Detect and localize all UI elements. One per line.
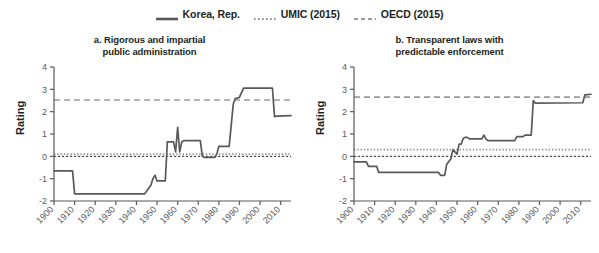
svg-text:2000: 2000 [540, 204, 561, 225]
svg-text:1960: 1960 [458, 204, 479, 225]
svg-text:1960: 1960 [158, 204, 179, 225]
svg-text:1920: 1920 [75, 204, 96, 225]
svg-text:1940: 1940 [417, 204, 438, 225]
panel-b: b. Transparent laws with predictable enf… [300, 30, 599, 253]
svg-text:1950: 1950 [437, 204, 458, 225]
legend-label-umic: UMIC (2015) [281, 8, 340, 20]
svg-text:1970: 1970 [178, 204, 199, 225]
svg-text:-2: -2 [39, 196, 47, 206]
svg-text:1930: 1930 [96, 204, 117, 225]
svg-text:4: 4 [42, 62, 47, 72]
svg-text:3: 3 [42, 85, 47, 95]
svg-text:1990: 1990 [520, 204, 541, 225]
svg-text:1: 1 [342, 129, 347, 139]
svg-text:1980: 1980 [199, 204, 220, 225]
legend-item-oecd: OECD (2015) [354, 8, 444, 20]
svg-text:3: 3 [342, 85, 347, 95]
svg-text:1910: 1910 [355, 204, 376, 225]
svg-text:1910: 1910 [55, 204, 76, 225]
panel-a-plot: -2-1012341900191019201930194019501960197… [0, 30, 299, 253]
legend-label-oecd: OECD (2015) [381, 8, 444, 20]
svg-text:2000: 2000 [240, 204, 261, 225]
svg-text:1950: 1950 [137, 204, 158, 225]
svg-text:1940: 1940 [117, 204, 138, 225]
svg-text:2: 2 [342, 107, 347, 117]
svg-text:-2: -2 [339, 196, 347, 206]
panel-b-ylabel: Rating [314, 101, 326, 135]
svg-text:1980: 1980 [499, 204, 520, 225]
svg-text:2010: 2010 [261, 204, 282, 225]
svg-text:0: 0 [342, 152, 347, 162]
svg-text:2010: 2010 [561, 204, 582, 225]
svg-text:-1: -1 [39, 174, 47, 184]
svg-text:1900: 1900 [34, 204, 55, 225]
chart-figure: Korea, Rep. UMIC (2015) OECD (2015) a. R… [0, 0, 599, 253]
legend-item-umic: UMIC (2015) [254, 8, 340, 20]
svg-text:-1: -1 [339, 174, 347, 184]
panel-b-plot: -2-1012341900191019201930194019501960197… [300, 30, 599, 253]
panel-a: a. Rigorous and impartial public adminis… [0, 30, 299, 253]
panel-a-ylabel: Rating [14, 101, 26, 135]
chart-legend: Korea, Rep. UMIC (2015) OECD (2015) [0, 4, 599, 24]
svg-text:4: 4 [342, 62, 347, 72]
svg-text:1: 1 [42, 129, 47, 139]
svg-text:1990: 1990 [220, 204, 241, 225]
svg-text:1970: 1970 [478, 204, 499, 225]
legend-label-korea: Korea, Rep. [183, 8, 240, 20]
svg-text:2: 2 [42, 107, 47, 117]
svg-text:1930: 1930 [396, 204, 417, 225]
legend-item-korea: Korea, Rep. [156, 8, 240, 20]
svg-text:0: 0 [42, 152, 47, 162]
svg-text:1900: 1900 [334, 204, 355, 225]
svg-text:1920: 1920 [375, 204, 396, 225]
